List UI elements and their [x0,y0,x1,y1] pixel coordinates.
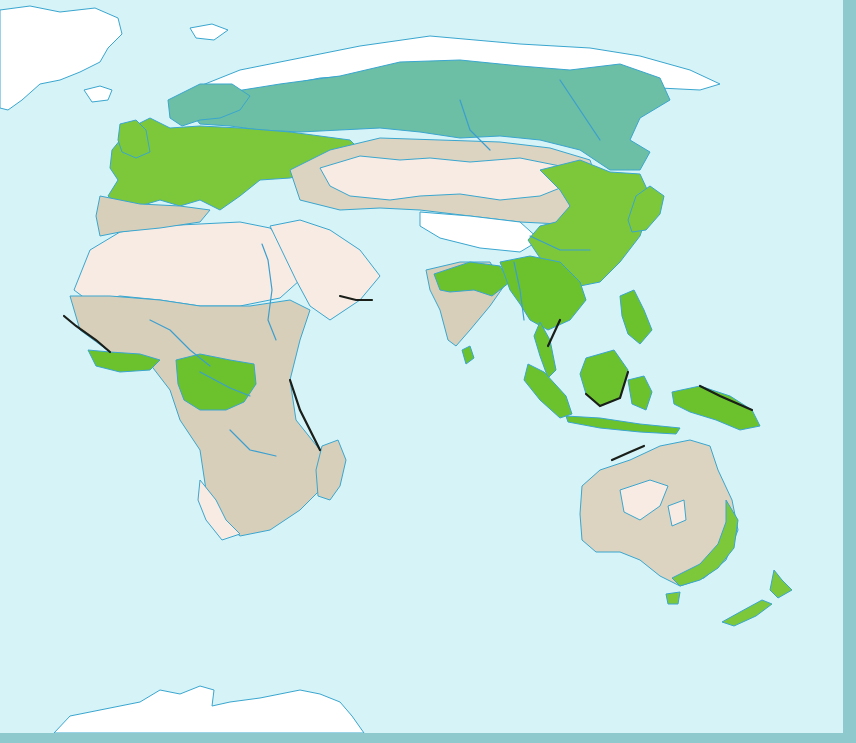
land-regions [0,6,792,733]
region-sulawesi-moluccas [628,376,652,410]
region-svalbard [190,24,228,40]
region-central-asia-desert [320,156,570,200]
region-central-africa-rainforest [176,354,256,410]
map-frame [0,0,856,743]
region-iceland [84,86,112,102]
region-new-zealand-south [722,600,772,626]
region-sri-lanka [462,346,474,364]
region-antarctica [54,686,364,733]
world-map[interactable] [0,0,843,733]
region-tasmania [666,592,680,604]
map-svg [0,0,843,733]
region-philippines [620,290,652,344]
region-new-zealand-north [770,570,792,598]
region-java-lesser-sunda [566,416,680,434]
